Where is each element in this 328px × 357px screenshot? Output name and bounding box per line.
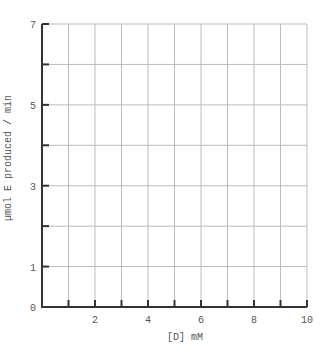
y-axis-label: µmol E produced / min [3,95,14,221]
grid-lines [42,24,307,307]
x-tick-label: 6 [198,315,204,326]
y-tick-label: 0 [30,303,36,314]
y-tick-label: 1 [30,263,36,274]
tick-labels: 24681001357 [30,20,313,326]
x-tick-label: 4 [145,315,151,326]
y-tick-label: 3 [30,182,36,193]
x-tick-label: 10 [301,315,313,326]
y-tick-label: 5 [30,101,36,112]
y-tick-label: 7 [30,20,36,31]
x-axis-label: [D] mM [167,332,203,343]
x-tick-label: 2 [92,315,98,326]
chart: 24681001357 [D] mM µmol E produced / min [0,0,328,357]
x-tick-label: 8 [251,315,257,326]
